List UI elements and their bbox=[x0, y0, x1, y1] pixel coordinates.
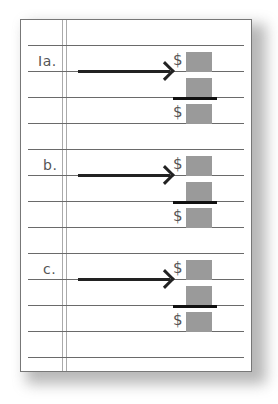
section-label: Ia. bbox=[38, 53, 57, 69]
amount-box bbox=[186, 286, 212, 306]
arrow-head-icon bbox=[155, 61, 175, 81]
dollar-sign: $ bbox=[173, 103, 183, 121]
rule-line bbox=[28, 149, 244, 150]
amount-box bbox=[186, 260, 212, 280]
total-bar bbox=[173, 97, 217, 100]
rule-line bbox=[28, 253, 244, 254]
amount-box bbox=[186, 104, 212, 124]
dollar-sign: $ bbox=[173, 155, 183, 173]
rule-line bbox=[28, 45, 244, 46]
dollar-sign: $ bbox=[173, 311, 183, 329]
total-bar bbox=[173, 201, 217, 204]
margin-line bbox=[62, 20, 63, 371]
amount-box bbox=[186, 208, 212, 228]
worksheet-card: Ia. $ $ b. $ $ c. $ $ bbox=[20, 19, 252, 372]
amount-box bbox=[186, 182, 212, 202]
amount-box bbox=[186, 52, 212, 72]
section-label: b. bbox=[43, 157, 57, 173]
arrow-head-icon bbox=[155, 269, 175, 289]
amount-box bbox=[186, 312, 212, 332]
total-bar bbox=[173, 305, 217, 308]
arrow-head-icon bbox=[155, 165, 175, 185]
dollar-sign: $ bbox=[173, 207, 183, 225]
rule-line bbox=[28, 357, 244, 358]
section-label: c. bbox=[43, 261, 56, 277]
margin-line bbox=[66, 20, 67, 371]
dollar-sign: $ bbox=[173, 51, 183, 69]
dollar-sign: $ bbox=[173, 259, 183, 277]
amount-box bbox=[186, 156, 212, 176]
amount-box bbox=[186, 78, 212, 98]
